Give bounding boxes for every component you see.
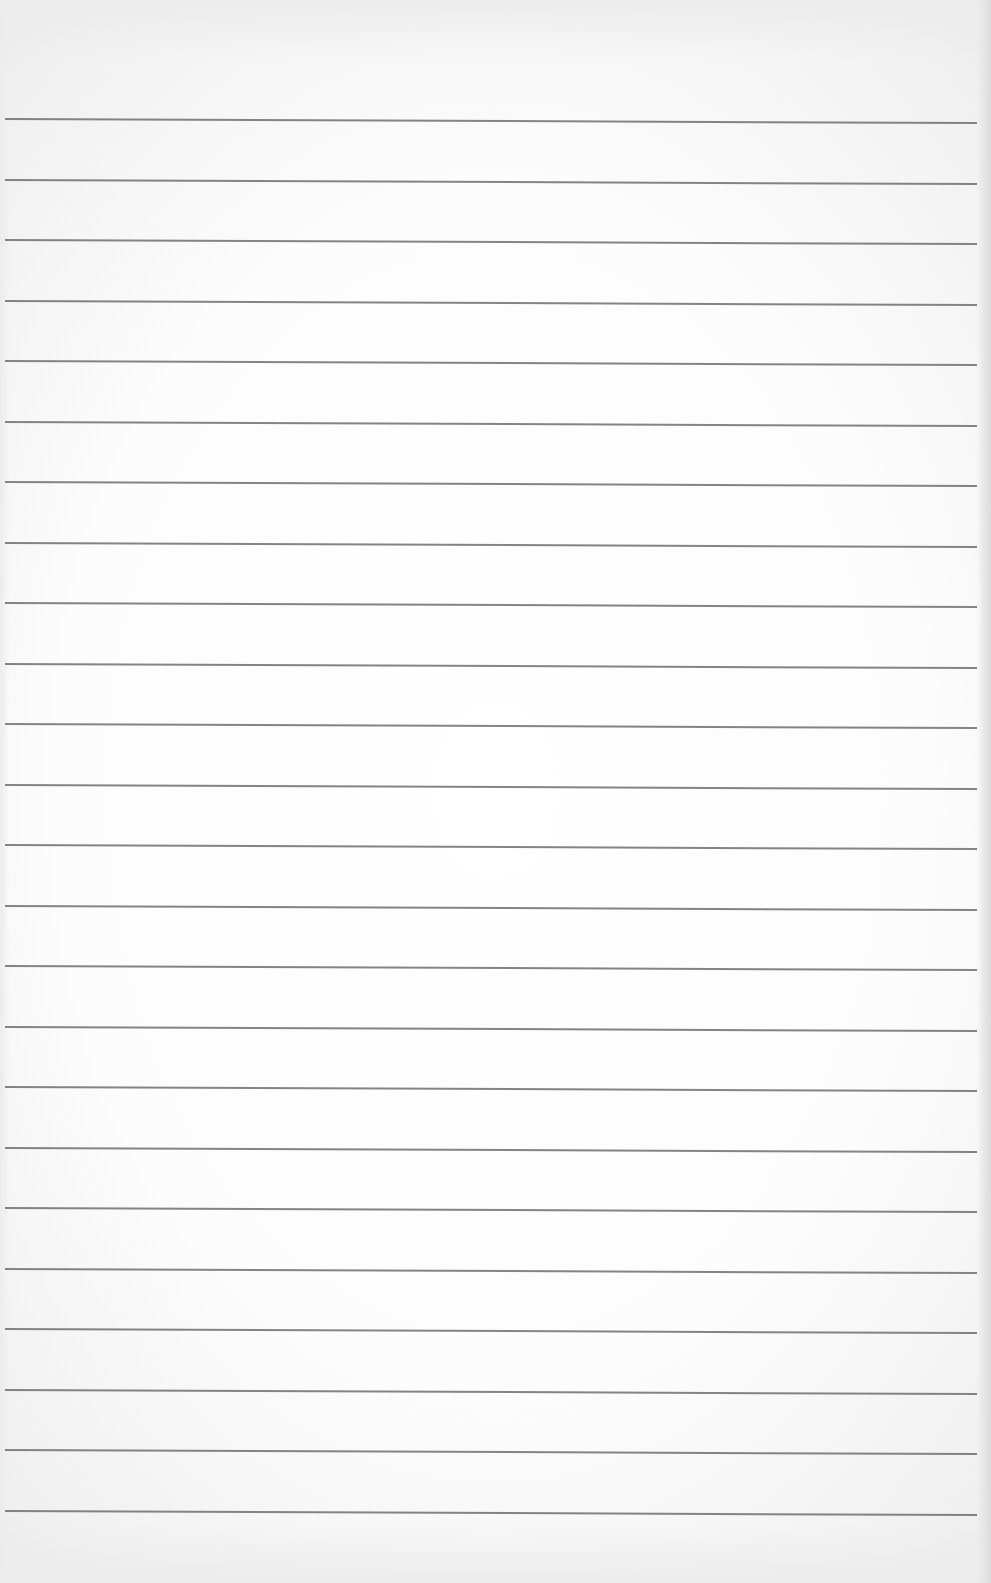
ruled-line	[5, 1026, 977, 1032]
ruled-line	[5, 844, 977, 850]
ruled-line	[5, 965, 977, 971]
ruled-line	[5, 421, 977, 427]
ruled-line	[5, 1147, 977, 1153]
ruled-line	[5, 1328, 977, 1334]
paper-top-shadow	[0, 0, 991, 60]
ruled-line	[5, 1449, 977, 1455]
ruled-line	[5, 481, 977, 487]
ruled-line	[5, 723, 977, 729]
ruled-line	[5, 1510, 977, 1516]
ruled-line	[5, 602, 977, 608]
ruled-line	[5, 905, 977, 911]
ruled-line	[5, 118, 977, 124]
ruled-line	[5, 784, 977, 790]
ruled-line	[5, 179, 977, 185]
ruled-line	[5, 1207, 977, 1213]
paper-left-shadow	[0, 0, 10, 1583]
ruled-line	[5, 1086, 977, 1092]
ruled-line	[5, 542, 977, 548]
paper-bottom-shadow	[0, 1523, 991, 1583]
ruled-line	[5, 360, 977, 366]
ruled-line	[5, 1268, 977, 1274]
ruled-line	[5, 1389, 977, 1395]
ruled-line	[5, 239, 977, 245]
ruled-line	[5, 663, 977, 669]
ruled-line	[5, 300, 977, 306]
paper-right-edge-shadow	[977, 0, 991, 1583]
lined-paper-sheet	[0, 0, 991, 1583]
